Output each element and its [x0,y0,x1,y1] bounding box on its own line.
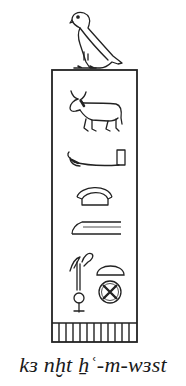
bull-icon [70,91,122,131]
palace-facade-icon [52,323,137,342]
plough-figure-icon [70,253,93,312]
horus-falcon-icon [70,12,122,68]
serekh-figure [0,0,186,386]
city-circle-icon [99,281,121,303]
serekh-frame [52,70,137,342]
arm-with-stick-icon [68,150,125,166]
half-loaf-icon [97,266,124,275]
forearm-icon [72,222,121,234]
bread-loaf-arch-icon [77,188,112,205]
transliteration-caption: kɜ nḫt ẖʿ-m-wɜst [0,352,186,378]
